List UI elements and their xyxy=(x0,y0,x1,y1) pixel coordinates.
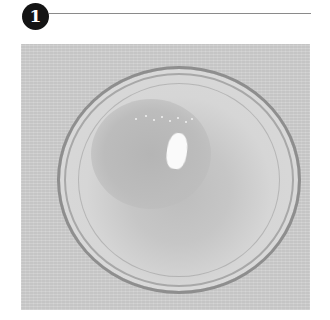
step-number-badge: 1 xyxy=(22,3,49,30)
header-divider xyxy=(49,13,311,14)
step-number: 1 xyxy=(30,8,42,25)
step-photo xyxy=(21,44,310,310)
bubbles xyxy=(131,112,201,126)
